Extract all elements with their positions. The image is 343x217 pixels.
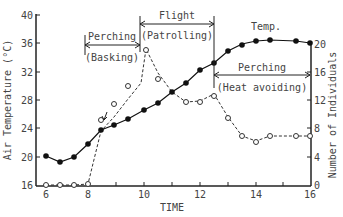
svg-text:32: 32 [21, 67, 33, 78]
svg-text:Flight: Flight [159, 10, 195, 21]
svg-text:8: 8 [314, 123, 320, 134]
svg-text:8: 8 [85, 189, 91, 200]
left-tick-labels: 40 36 32 28 24 20 16 [21, 10, 33, 191]
svg-text:40: 40 [21, 10, 33, 21]
svg-text:36: 36 [21, 38, 33, 49]
svg-text:4: 4 [314, 152, 320, 163]
svg-text:6: 6 [43, 189, 49, 200]
svg-text:(Heat avoiding): (Heat avoiding) [217, 82, 307, 93]
right-tick-labels: 20 16 12 8 4 0 [314, 39, 326, 191]
left-axis-label: Air Temperature (°C) [2, 40, 13, 160]
temp-markers [43, 37, 313, 165]
phase-labels: Perching (Basking) Flight (Patrolling) P… [85, 10, 307, 93]
svg-text:12: 12 [314, 95, 326, 106]
x-tick-labels: 6 8 10 12 14 16 [43, 189, 316, 200]
svg-text:16: 16 [21, 180, 33, 191]
svg-text:14: 14 [250, 189, 262, 200]
svg-text:24: 24 [21, 123, 33, 134]
x-axis-label: TIME [160, 202, 184, 213]
svg-text:20: 20 [21, 152, 33, 163]
svg-text:16: 16 [304, 189, 316, 200]
right-axis-label: Number of Individuals [327, 52, 338, 178]
svg-text:28: 28 [21, 95, 33, 106]
svg-text:10: 10 [138, 189, 150, 200]
svg-text:(Basking): (Basking) [85, 52, 139, 63]
chart: 40 36 32 28 24 20 16 20 16 12 8 4 0 6 8 … [0, 0, 343, 217]
svg-text:(Patrolling): (Patrolling) [141, 30, 213, 41]
svg-text:Perching: Perching [238, 62, 286, 73]
svg-text:16: 16 [314, 67, 326, 78]
svg-text:Perching: Perching [88, 31, 136, 42]
svg-text:Temp.: Temp. [251, 21, 281, 32]
svg-text:20: 20 [314, 39, 326, 50]
svg-text:12: 12 [194, 189, 206, 200]
